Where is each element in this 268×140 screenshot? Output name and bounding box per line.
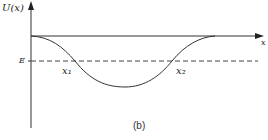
figure-caption: (b) bbox=[133, 121, 145, 131]
energy-label: E bbox=[19, 57, 25, 65]
turning-point-x2-label: x₂ bbox=[176, 66, 186, 76]
turning-point-x1-label: x₁ bbox=[62, 66, 72, 76]
potential-well-diagram bbox=[0, 0, 268, 140]
y-axis-label: U(x) bbox=[2, 3, 24, 13]
x-axis-label: x bbox=[261, 39, 266, 47]
y-axis-arrow-icon bbox=[28, 1, 34, 10]
